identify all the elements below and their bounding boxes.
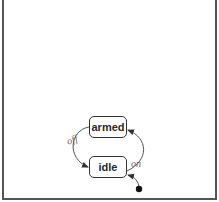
state-armed[interactable]: armed (89, 116, 127, 138)
state-idle[interactable]: idle (89, 156, 127, 178)
transition-on-label: on (131, 159, 141, 169)
initial-transition-edge (128, 175, 139, 188)
state-idle-label: idle (99, 161, 118, 173)
state-armed-label: armed (91, 121, 124, 133)
initial-state-dot (136, 186, 142, 192)
